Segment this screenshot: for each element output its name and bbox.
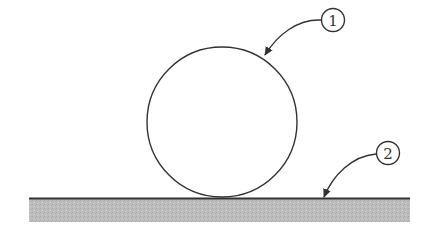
callout-2-arrow (324, 154, 376, 197)
callout-1: 1 (265, 9, 345, 56)
ground-fill (29, 199, 410, 222)
ground-surface (29, 199, 410, 223)
callout-2-number: 2 (383, 145, 393, 163)
circle-body (147, 47, 297, 197)
callout-1-number: 1 (328, 12, 338, 30)
callout-2: 2 (324, 142, 400, 198)
callout-1-arrow (265, 20, 321, 55)
diagram-canvas: 1 2 (0, 0, 440, 245)
